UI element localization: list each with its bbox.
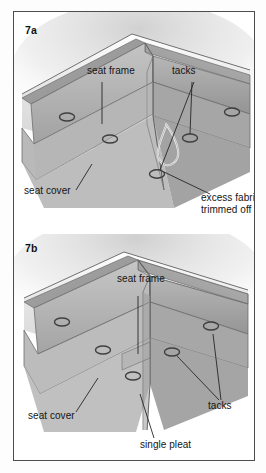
- diagram-7b-svg: [14, 234, 254, 461]
- label-single-pleat: single pleat: [140, 439, 191, 451]
- label-seat-cover: seat cover: [28, 410, 75, 422]
- label-excess-fabric-line2: trimmed off: [201, 204, 251, 216]
- figure-frame: 7a: [13, 11, 255, 461]
- label-excess-fabric-line1: excess fabric: [201, 192, 254, 204]
- panel-tag-7a: 7a: [25, 24, 37, 36]
- label-tacks: tacks: [208, 400, 232, 412]
- label-tacks: tacks: [172, 65, 196, 77]
- single-pleat-face: [143, 292, 150, 430]
- figure-root: 7a: [0, 0, 266, 473]
- panel-7a: 7a: [14, 12, 254, 234]
- label-seat-frame: seat frame: [117, 273, 165, 285]
- artwork-7b: [14, 234, 254, 461]
- label-seat-cover: seat cover: [24, 185, 71, 197]
- panel-tag-7b: 7b: [25, 242, 37, 254]
- label-seat-frame: seat frame: [87, 65, 135, 77]
- panel-7b: 7b: [14, 234, 254, 461]
